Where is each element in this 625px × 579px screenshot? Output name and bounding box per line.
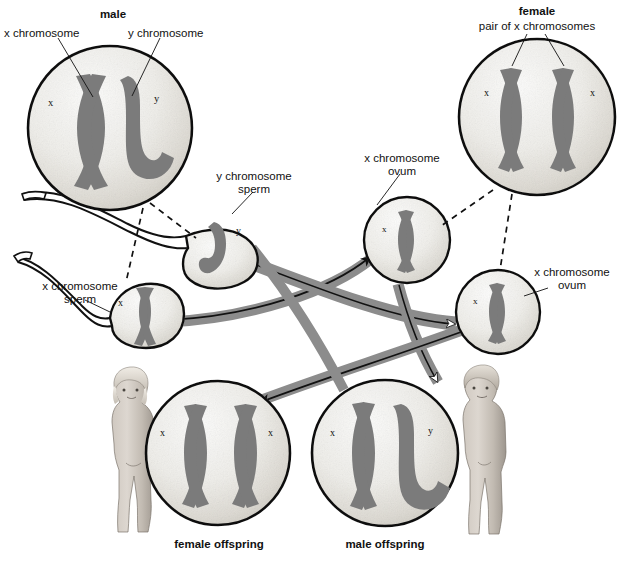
male-offspring-cell[interactable]: x y bbox=[312, 380, 458, 526]
male-cell-y-mark: y bbox=[154, 93, 160, 104]
y-sperm-label-line2: sperm bbox=[186, 183, 322, 196]
ovum-upper-label-line2: ovum bbox=[338, 165, 466, 178]
dash-male-to-x-sperm bbox=[126, 208, 143, 282]
dash-female-to-upper-ovum bbox=[441, 190, 493, 226]
female-title-label: female bbox=[500, 5, 574, 18]
male-offspring-y-mark: y bbox=[428, 425, 433, 436]
ovum-lower-x-mark: x bbox=[473, 296, 478, 306]
female-offspring-x-mark-left: x bbox=[160, 427, 165, 438]
female-offspring-label: female offspring bbox=[148, 538, 290, 551]
dash-female-to-lower-ovum bbox=[500, 194, 512, 270]
female-offspring-x-mark-right: x bbox=[268, 427, 273, 438]
diagram-canvas: y x x y bbox=[0, 0, 625, 579]
ovum-lower-label-line1: x chromosome bbox=[522, 266, 622, 279]
female-offspring-cell[interactable]: x x bbox=[146, 381, 290, 525]
male-cell-x-mark: x bbox=[48, 97, 54, 108]
female-parent-cell[interactable]: x x bbox=[459, 39, 615, 195]
arrow-upper-ovum-to-male-offspring bbox=[398, 284, 438, 382]
arrow-crossing-band bbox=[252, 248, 344, 390]
ovum-upper[interactable]: x bbox=[364, 197, 450, 283]
male-y-chromosome-label: y chromosome bbox=[128, 27, 203, 40]
female-pair-label: pair of x chromosomes bbox=[464, 20, 610, 33]
y-chromosome-sperm[interactable]: y bbox=[22, 192, 258, 289]
x-sperm-label-line2: sperm bbox=[20, 293, 140, 306]
y-sperm-chromosome-mark: y bbox=[236, 225, 241, 236]
sperm-group: y x bbox=[14, 192, 258, 348]
ovum-lower-label-line2: ovum bbox=[522, 279, 622, 292]
male-title-label: male bbox=[78, 8, 148, 21]
male-x-chromosome-label: x chromosome bbox=[4, 27, 79, 40]
male-offspring-x-mark: x bbox=[330, 427, 335, 438]
female-cell-x-mark-right: x bbox=[590, 87, 595, 98]
x-sperm-label-line1: x chromosome bbox=[20, 280, 140, 293]
y-sperm-label-line1: y chromosome bbox=[186, 170, 322, 183]
ovum-upper-label-line1: x chromosome bbox=[338, 152, 466, 165]
male-offspring-label: male offspring bbox=[318, 538, 452, 551]
dash-male-to-y-sperm bbox=[150, 203, 196, 238]
ovum-upper-x-mark: x bbox=[382, 224, 387, 234]
female-cell-x-mark-left: x bbox=[484, 87, 489, 98]
male-child-figure bbox=[463, 365, 506, 534]
male-parent-cell[interactable]: x y bbox=[28, 46, 192, 210]
